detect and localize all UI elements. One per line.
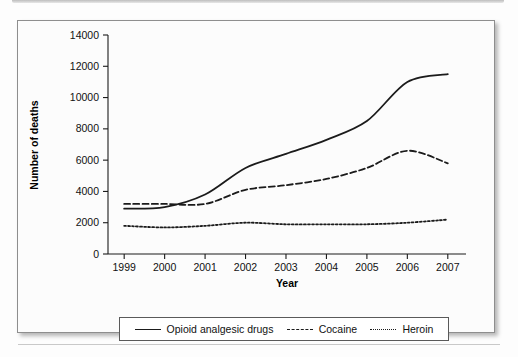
legend-swatch-solid-icon — [135, 329, 161, 330]
y-axis-tick-labels: 02000400060008000100001200014000 — [70, 29, 99, 260]
x-tick-label: 2000 — [153, 261, 177, 273]
y-tick-label: 2000 — [76, 216, 100, 228]
x-tick-label: 2001 — [193, 261, 217, 273]
figure-card: 02000400060008000100001200014000 1999200… — [17, 20, 495, 333]
chart-legend: Opioid analgesic drugs Cocaine Heroin — [119, 317, 449, 341]
x-tick-label: 2007 — [436, 261, 460, 273]
x-tick-label: 2002 — [234, 261, 258, 273]
x-tick-label: 2006 — [396, 261, 420, 273]
legend-swatch-dotted-icon — [370, 329, 396, 330]
series-line-opioid-analgesic-drugs — [124, 74, 448, 209]
legend-swatch-dashed-icon — [287, 329, 313, 330]
y-axis-title: Number of deaths — [28, 100, 40, 189]
page-top-tab-bar — [12, 0, 504, 3]
scanned-page-background: 02000400060008000100001200014000 1999200… — [0, 0, 518, 357]
x-tick-label: 2004 — [315, 261, 339, 273]
legend-label-heroin: Heroin — [402, 323, 433, 335]
x-tick-label: 2005 — [355, 261, 379, 273]
legend-label-opioid-analgesic-drugs: Opioid analgesic drugs — [167, 323, 274, 335]
y-axis-ticks — [103, 35, 108, 254]
y-tick-label: 0 — [93, 248, 99, 260]
series-line-heroin — [124, 220, 448, 228]
x-axis-tick-labels: 199920002001200220032004200520062007 — [113, 261, 460, 273]
legend-item-heroin: Heroin — [370, 323, 433, 335]
legend-item-opioid-analgesic-drugs: Opioid analgesic drugs — [135, 323, 274, 335]
legend-item-cocaine: Cocaine — [287, 323, 358, 335]
x-axis-title: Year — [276, 277, 298, 289]
x-axis-ticks — [124, 254, 448, 259]
y-tick-label: 12000 — [70, 60, 99, 72]
line-chart: 02000400060008000100001200014000 1999200… — [18, 21, 494, 332]
y-tick-label: 6000 — [76, 154, 100, 166]
y-tick-label: 4000 — [76, 185, 100, 197]
series-line-cocaine — [124, 151, 448, 205]
y-tick-label: 14000 — [70, 29, 99, 41]
x-tick-label: 1999 — [113, 261, 137, 273]
y-tick-label: 8000 — [76, 122, 100, 134]
legend-label-cocaine: Cocaine — [319, 323, 358, 335]
x-tick-label: 2003 — [274, 261, 298, 273]
y-tick-label: 10000 — [70, 91, 99, 103]
page-bottom-rule — [18, 344, 500, 345]
data-series-group — [124, 74, 448, 227]
